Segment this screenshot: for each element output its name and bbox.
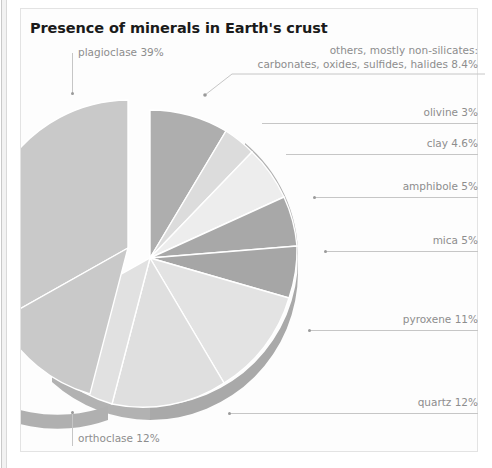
leader-amphibole bbox=[315, 197, 478, 198]
label-orthoclase: orthoclase 12% bbox=[78, 432, 160, 444]
leader-orthoclase bbox=[72, 412, 73, 446]
pie-slices-group bbox=[0, 100, 298, 429]
leader-dot-amphibole bbox=[313, 196, 316, 199]
leader-plagioclase bbox=[72, 53, 73, 93]
label-quartz: quartz 12% bbox=[418, 396, 478, 408]
leader-dot-quartz bbox=[228, 412, 231, 415]
label-amphibole: amphibole 5% bbox=[403, 180, 478, 192]
leader-dot-orthoclase bbox=[71, 411, 74, 414]
leader-dot-pyroxene bbox=[308, 329, 311, 332]
label-olivine: olivine 3% bbox=[424, 106, 479, 118]
leader-mica bbox=[326, 251, 478, 252]
label-plagioclase: plagioclase 39% bbox=[78, 46, 164, 58]
leader-dot-mica bbox=[324, 250, 327, 253]
label-others-line1: others, mostly non-silicates: bbox=[330, 44, 478, 56]
leader-others bbox=[200, 66, 485, 98]
leader-olivine bbox=[262, 123, 478, 124]
leader-pyroxene bbox=[310, 330, 478, 331]
page-title: Presence of minerals in Earth's crust bbox=[30, 20, 328, 36]
label-mica: mica 5% bbox=[433, 234, 478, 246]
leader-quartz bbox=[230, 413, 478, 414]
leader-dot-plagioclase bbox=[71, 92, 74, 95]
chart-stage: plagioclase 39% others, mostly non-silic… bbox=[0, 0, 492, 468]
label-clay: clay 4.6% bbox=[427, 137, 478, 149]
label-pyroxene: pyroxene 11% bbox=[403, 313, 478, 325]
leader-clay bbox=[286, 154, 478, 155]
